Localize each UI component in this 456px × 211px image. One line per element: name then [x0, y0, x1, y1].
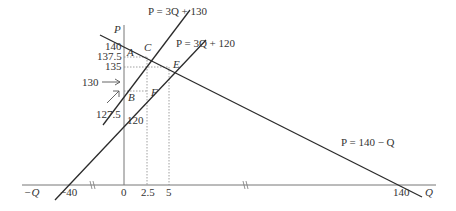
neg-x-axis-label: −Q — [24, 186, 39, 198]
x-tick-140: 140 — [393, 186, 410, 198]
point-b-label: B — [128, 91, 135, 103]
y-tick-120: 120 — [127, 114, 144, 126]
x-tick-0: 0 — [121, 186, 127, 198]
y-tick-127-5: 127.5 — [96, 108, 121, 120]
y-axis-label: P — [113, 23, 121, 35]
supply-130-label: P = 3Q + 130 — [148, 5, 208, 17]
x-tick-neg40: −40 — [60, 186, 78, 198]
arrow-127-5-icon — [107, 91, 119, 103]
x-tick-5: 5 — [166, 186, 172, 198]
point-f-label: F — [150, 86, 158, 98]
point-c-label: C — [144, 41, 152, 53]
demand-label: P = 140 − Q — [341, 136, 395, 148]
supply-demand-diagram: P = 3Q + 130 P = 3Q + 120 P = 140 − Q P … — [0, 0, 456, 211]
y-tick-135: 135 — [105, 60, 122, 72]
arrow-130-icon — [102, 79, 120, 85]
point-e-label: E — [172, 58, 180, 70]
point-a-label: A — [126, 46, 134, 58]
y-tick-130: 130 — [82, 76, 99, 88]
x-axis-label: Q — [425, 186, 433, 198]
supply-120-label: P = 3Q + 120 — [176, 37, 236, 49]
demand-curve — [100, 35, 422, 197]
x-tick-2-5: 2.5 — [141, 186, 155, 198]
